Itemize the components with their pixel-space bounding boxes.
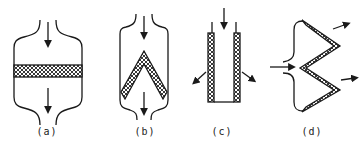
outlet-arrow-top-icon xyxy=(333,24,347,29)
panel-b xyxy=(120,14,168,120)
outlet-arrow-bottom-icon xyxy=(341,78,355,80)
panel-c xyxy=(195,8,253,102)
label-a: (a) xyxy=(36,126,57,137)
panel-a xyxy=(14,20,82,125)
mesh-c-left xyxy=(208,33,214,102)
panel-d xyxy=(270,20,355,112)
mesh-b xyxy=(121,51,167,99)
mesh-a xyxy=(14,65,82,77)
outlet-arrow-left-icon xyxy=(195,72,206,82)
outlet-arrow-right-icon xyxy=(242,72,253,80)
label-c: (c) xyxy=(211,126,232,137)
mesh-d xyxy=(300,20,340,112)
label-d: (d) xyxy=(301,126,322,137)
label-b: (b) xyxy=(134,126,155,137)
housing-d xyxy=(283,21,303,111)
mesh-c-right xyxy=(234,33,240,102)
